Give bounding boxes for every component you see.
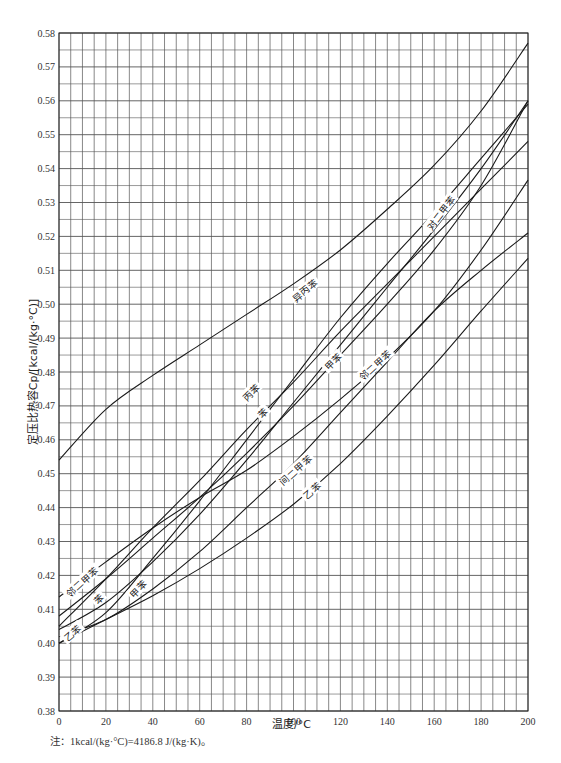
series-label: 丙苯 (238, 379, 264, 405)
cp-chart: 异丙苯对二甲苯甲苯甲苯丙苯苯苯邻二甲苯邻二甲苯间二甲苯乙苯乙苯 02040608… (0, 0, 561, 763)
y-tick-label: 0.43 (38, 536, 56, 547)
x-axis-title: 温度/°C (272, 717, 311, 731)
y-tick-label: 0.38 (38, 706, 56, 717)
x-tick-label: 60 (195, 716, 205, 727)
footnote: 注：1kcal/(kg·°C)=4186.8 J/(kg·K)。 (50, 733, 211, 748)
y-tick-label: 0.52 (38, 231, 56, 242)
y-tick-label: 0.50 (38, 299, 56, 310)
series-label: 对二甲苯 (422, 191, 459, 233)
y-tick-label: 0.39 (38, 672, 56, 683)
grid-lines (59, 33, 528, 711)
x-tick-label: 140 (380, 716, 395, 727)
x-tick-label: 0 (57, 716, 62, 727)
series-label: 邻二甲苯 (355, 345, 396, 384)
y-tick-label: 0.53 (38, 197, 56, 208)
y-tick-label: 0.46 (38, 434, 56, 445)
x-tick-label: 180 (474, 716, 489, 727)
x-tick-label: 200 (521, 716, 536, 727)
y-tick-label: 0.47 (38, 400, 56, 411)
y-axis-ticks: 0.380.390.400.410.420.430.440.450.460.47… (38, 28, 56, 717)
y-tick-label: 0.45 (38, 468, 56, 479)
svg-text:间二甲苯: 间二甲苯 (277, 453, 314, 488)
y-tick-label: 0.48 (38, 367, 56, 378)
y-tick-label: 0.55 (38, 129, 56, 140)
x-tick-label: 80 (242, 716, 252, 727)
y-tick-label: 0.57 (38, 61, 56, 72)
x-tick-label: 40 (148, 716, 158, 727)
y-tick-label: 0.44 (38, 502, 56, 513)
series-label: 甲苯 (320, 348, 346, 374)
y-tick-label: 0.51 (38, 265, 56, 276)
x-tick-label: 20 (101, 716, 111, 727)
series-label: 间二甲苯 (275, 450, 316, 489)
y-tick-label: 0.58 (38, 28, 56, 39)
y-tick-label: 0.40 (38, 638, 56, 649)
y-tick-label: 0.41 (38, 604, 56, 615)
y-tick-label: 0.49 (38, 333, 56, 344)
y-tick-label: 0.42 (38, 570, 56, 581)
y-tick-label: 0.56 (38, 95, 56, 106)
series-label: 苯 (89, 589, 108, 608)
y-tick-label: 0.54 (38, 163, 56, 174)
y-axis-title: 定压比热容Cp/[kcal/(kg·°C)] (26, 299, 40, 446)
x-tick-label: 160 (427, 716, 442, 727)
x-tick-label: 120 (333, 716, 348, 727)
